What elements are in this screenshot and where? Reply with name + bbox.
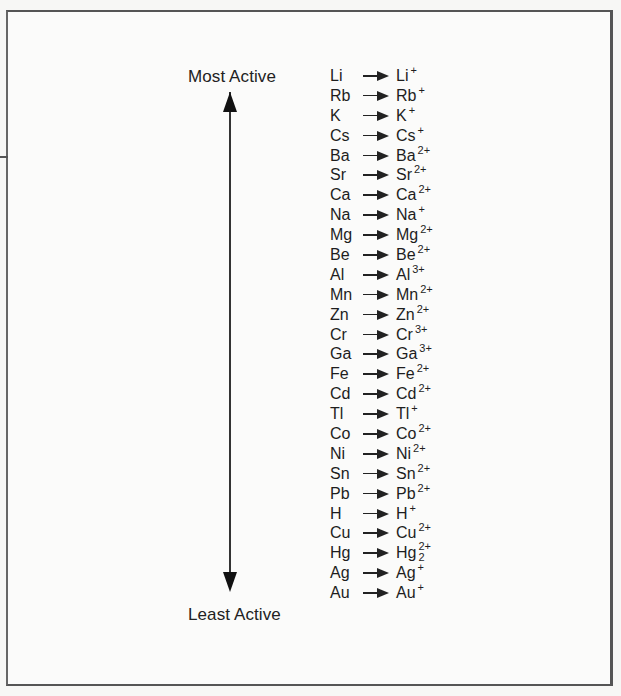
- reaction-arrow-icon: [363, 165, 391, 185]
- ion-symbol: Ca: [396, 186, 416, 203]
- reaction-row: GaGa3+: [330, 344, 530, 364]
- reaction-arrow-icon: [363, 245, 391, 265]
- reaction-row: AgAg+: [330, 563, 530, 583]
- ion-charge: 2+: [418, 462, 431, 474]
- ion-symbol: Ba: [396, 147, 416, 164]
- reaction-arrow-icon: [363, 364, 391, 384]
- metal-symbol: Fe: [330, 364, 349, 384]
- metal-symbol: Au: [330, 583, 350, 603]
- metal-symbol: Ni: [330, 444, 345, 464]
- ion-symbol: Ni: [396, 445, 411, 462]
- page-edge-line: [0, 156, 8, 158]
- ion-symbol: Zn: [396, 306, 415, 323]
- reaction-arrow-icon: [363, 523, 391, 543]
- metal-symbol: H: [330, 504, 342, 524]
- ion-charge: 2+: [418, 482, 431, 494]
- ion-symbol: Tl: [396, 405, 409, 422]
- reaction-row: BaBa2+: [330, 146, 530, 166]
- reaction-arrow-icon: [363, 444, 391, 464]
- reaction-row: HgHg2+2: [330, 543, 530, 563]
- ion-charge: 2+: [414, 163, 427, 175]
- ion-symbol: Co: [396, 425, 416, 442]
- reaction-arrow-icon: [363, 205, 391, 225]
- ion-charge: +: [418, 124, 424, 136]
- reaction-arrow-icon: [363, 424, 391, 444]
- reaction-arrow-icon: [363, 563, 391, 583]
- reaction-row: MgMg2+: [330, 225, 530, 245]
- reaction-arrow-icon: [363, 285, 391, 305]
- metal-symbol: Cs: [330, 126, 350, 146]
- metal-symbol: Tl: [330, 404, 343, 424]
- ion-symbol: Cs: [396, 127, 416, 144]
- reaction-row: AuAu+: [330, 583, 530, 603]
- ion-charge: 2+: [418, 521, 431, 533]
- ion-symbol: Li: [396, 67, 408, 84]
- ion-symbol: Pb: [396, 485, 416, 502]
- metal-symbol: Na: [330, 205, 350, 225]
- reaction-arrow-icon: [363, 583, 391, 603]
- ion-symbol: Cr: [396, 326, 413, 343]
- ion-symbol: Be: [396, 246, 416, 263]
- ion-charge: 3+: [415, 323, 428, 335]
- metal-symbol: Ga: [330, 344, 351, 364]
- metal-symbol: Ba: [330, 146, 350, 166]
- ion-charge: +: [411, 402, 417, 414]
- ion-charge: 2+: [418, 422, 431, 434]
- activity-arrow-shaft: [229, 92, 231, 580]
- ion-symbol: Ga: [396, 345, 417, 362]
- reaction-arrow-icon: [363, 325, 391, 345]
- metal-symbol: Zn: [330, 305, 349, 325]
- metal-symbol: Sr: [330, 165, 346, 185]
- ion-symbol: Au: [396, 584, 416, 601]
- least-active-label: Least Active: [188, 605, 281, 625]
- ion-symbol: Mn: [396, 286, 418, 303]
- reaction-row: AlAl3+: [330, 265, 530, 285]
- reaction-arrow-icon: [363, 384, 391, 404]
- arrow-up-icon: [223, 92, 237, 112]
- metal-symbol: Be: [330, 245, 350, 265]
- reaction-arrow-icon: [363, 225, 391, 245]
- metal-symbol: Mn: [330, 285, 352, 305]
- ion-symbol: Na: [396, 206, 416, 223]
- metal-symbol: Rb: [330, 86, 350, 106]
- ion-formula: Hg2+2: [396, 543, 430, 563]
- ion-symbol: Sr: [396, 166, 412, 183]
- ion-charge: +: [410, 502, 416, 514]
- metal-symbol: Cu: [330, 523, 350, 543]
- ion-charge: 2+: [418, 144, 431, 156]
- reaction-row: KK+: [330, 106, 530, 126]
- ion-charge: 2+: [420, 283, 433, 295]
- ion-charge: +: [410, 64, 416, 76]
- ion-symbol: Al: [396, 266, 410, 283]
- metal-symbol: K: [330, 106, 341, 126]
- most-active-label: Most Active: [188, 67, 276, 87]
- ion-symbol: Mg: [396, 226, 418, 243]
- reaction-arrow-icon: [363, 146, 391, 166]
- ion-charge: 2+: [418, 382, 431, 394]
- reaction-row: CoCo2+: [330, 424, 530, 444]
- metal-symbol: Al: [330, 265, 344, 285]
- ion-symbol: Cd: [396, 385, 416, 402]
- reaction-arrow-icon: [363, 66, 391, 86]
- ion-symbol: Rb: [396, 87, 416, 104]
- metal-symbol: Ag: [330, 563, 350, 583]
- reaction-row: SnSn2+: [330, 464, 530, 484]
- metal-symbol: Hg: [330, 543, 350, 563]
- ion-charge: +: [418, 203, 424, 215]
- ion-formula: Au+: [396, 583, 424, 604]
- reaction-arrow-icon: [363, 185, 391, 205]
- ion-symbol: K: [396, 107, 407, 124]
- metal-symbol: Mg: [330, 225, 352, 245]
- ion-formula: Li+: [396, 66, 417, 87]
- ion-charge: 2+: [413, 442, 426, 454]
- metal-symbol: Cr: [330, 325, 347, 345]
- ion-formula: Ca2+: [396, 185, 431, 206]
- ion-symbol: H: [396, 505, 408, 522]
- reaction-arrow-icon: [363, 126, 391, 146]
- reaction-arrow-icon: [363, 543, 391, 563]
- metal-symbol: Li: [330, 66, 342, 86]
- reaction-row: MnMn2+: [330, 285, 530, 305]
- reaction-arrow-icon: [363, 504, 391, 524]
- ion-symbol: Hg: [396, 544, 416, 561]
- ion-charge: 2+: [417, 362, 430, 374]
